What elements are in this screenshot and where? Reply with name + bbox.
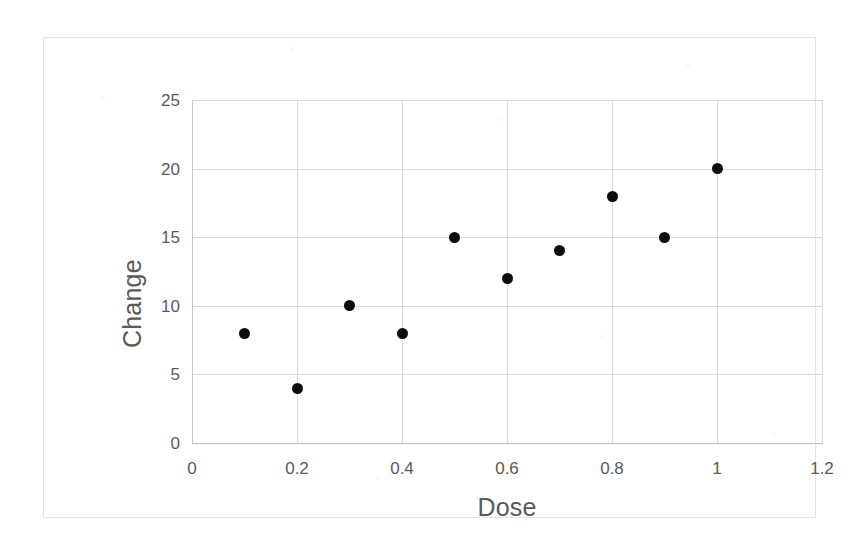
x-axis-title: Dose: [192, 493, 822, 522]
scatter-point[interactable]: [502, 273, 513, 284]
gridline-x-0.4: [402, 100, 403, 443]
y-tick-label: 15: [161, 229, 180, 246]
y-tick-label: 25: [161, 92, 180, 109]
x-tick-label: 0.2: [285, 460, 309, 477]
gridline-x-0.6: [507, 100, 508, 443]
scatter-point[interactable]: [292, 383, 303, 394]
x-tick-label: 0.6: [495, 460, 519, 477]
scatter-point[interactable]: [397, 328, 408, 339]
scatter-point[interactable]: [554, 245, 565, 256]
y-axis-title: Change: [118, 259, 147, 348]
y-axis-line: [192, 100, 193, 444]
x-tick-label: 0: [187, 460, 196, 477]
scatter-point[interactable]: [712, 163, 723, 174]
plot-area: [192, 100, 822, 443]
x-tick-label: 1: [712, 460, 721, 477]
x-axis-tick-labels: 00.20.40.60.811.2: [192, 460, 822, 482]
y-tick-label: 20: [161, 161, 180, 178]
scatter-point[interactable]: [344, 300, 355, 311]
y-tick-label: 0: [171, 435, 180, 452]
gridline-x-0.8: [612, 100, 613, 443]
x-axis-line: [192, 443, 823, 444]
chart-frame: 0510152025 00.20.40.60.811.2 Dose Change: [43, 37, 816, 518]
x-tick-label: 0.8: [600, 460, 624, 477]
gridline-x-1: [717, 100, 718, 443]
x-tick-label: 0.4: [390, 460, 414, 477]
scatter-point[interactable]: [659, 232, 670, 243]
y-tick-label: 5: [171, 366, 180, 383]
x-tick-label: 1.2: [810, 460, 834, 477]
scatter-point[interactable]: [607, 191, 618, 202]
gridline-x-1.2: [822, 100, 823, 443]
scatter-point[interactable]: [449, 232, 460, 243]
y-tick-label: 10: [161, 298, 180, 315]
scatter-point[interactable]: [239, 328, 250, 339]
